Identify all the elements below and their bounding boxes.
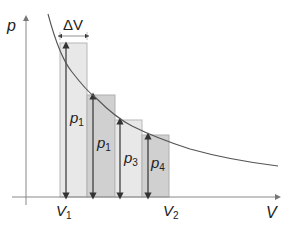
- delta-v-label: ΔV: [63, 17, 83, 32]
- y-axis-label: p: [7, 18, 16, 34]
- bar-1-label: p1: [70, 110, 84, 128]
- bar-2-label: p1: [97, 135, 111, 153]
- x-axis-label: V: [266, 205, 277, 221]
- pv-diagram: [0, 0, 292, 233]
- v2-label: V2: [163, 203, 179, 221]
- v1-label: V1: [56, 203, 72, 221]
- bar-3-label: p3: [124, 150, 138, 168]
- bar-4-label: p4: [151, 155, 165, 173]
